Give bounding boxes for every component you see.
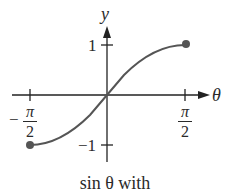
- y-tick-label-pos: 1: [88, 37, 97, 54]
- frac-bar: [178, 121, 192, 122]
- frac-denominator: 2: [26, 124, 34, 140]
- y-tick-label-neg: −1: [78, 137, 96, 154]
- frac-numerator: π: [181, 104, 189, 120]
- x-axis-arrow-icon: [198, 91, 210, 99]
- endpoint-right: [182, 40, 190, 48]
- x-tick-neg-sign: −: [9, 111, 19, 128]
- endpoint-left: [26, 141, 34, 149]
- frac-denominator: 2: [181, 124, 189, 140]
- y-axis-label: y: [101, 5, 109, 23]
- frac-numerator: π: [26, 104, 34, 120]
- caption: sin θ with: [0, 173, 230, 194]
- y-axis-arrow-icon: [103, 26, 111, 38]
- x-axis-label: θ: [212, 86, 221, 104]
- x-tick-label-pos: π 2: [178, 104, 192, 140]
- frac-bar: [23, 121, 37, 122]
- plot-area: [0, 0, 230, 196]
- x-tick-label-neg: π 2: [23, 104, 37, 140]
